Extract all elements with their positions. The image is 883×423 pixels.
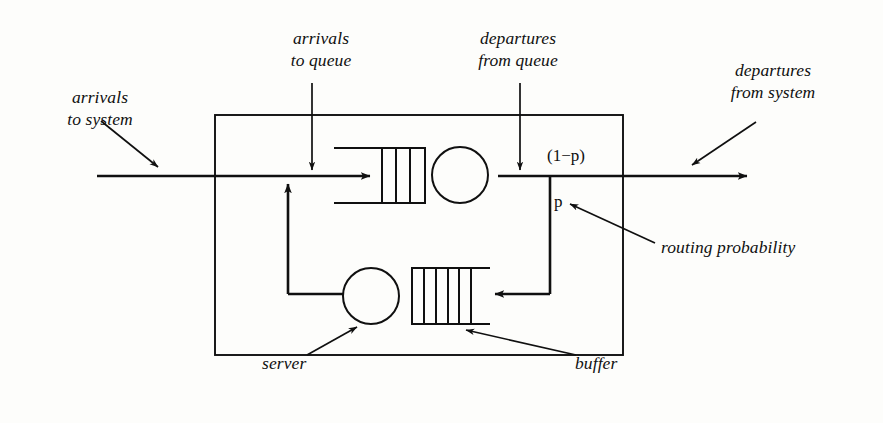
- leader-departures-from-system: [692, 122, 756, 165]
- lower-server-circle: [343, 268, 399, 324]
- label-departures-from-queue: departures from queue: [443, 27, 593, 72]
- leader-routing-probability: [570, 204, 655, 243]
- label-complement-probability: (1−p): [547, 146, 585, 166]
- leader-buffer: [466, 330, 576, 355]
- label-arrivals-to-system: arrivals to system: [40, 86, 160, 131]
- label-server: server: [262, 352, 306, 374]
- label-departures-from-system: departures from system: [698, 59, 848, 104]
- leader-server: [307, 327, 357, 355]
- label-probability-p: p: [554, 192, 563, 212]
- upper-queue-slot-box: [382, 148, 425, 203]
- label-routing-probability: routing probability: [661, 236, 795, 258]
- buffer-slot-box: [412, 268, 471, 324]
- queueing-diagram: arrivals to system arrivals to queue dep…: [0, 0, 883, 423]
- label-buffer: buffer: [575, 352, 617, 374]
- label-arrivals-to-queue: arrivals to queue: [266, 27, 376, 72]
- upper-server-circle: [432, 147, 488, 203]
